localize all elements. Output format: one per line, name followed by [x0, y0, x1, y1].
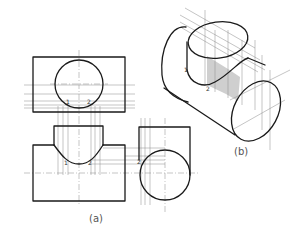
view-b-label: (b): [234, 146, 248, 157]
side-point-2-label: 2: [137, 158, 141, 165]
iso-point-2-label: 2: [206, 85, 210, 92]
view-a-label: (a): [89, 213, 103, 224]
front-point-2-label: 2: [88, 159, 92, 166]
side-view: 2: [137, 118, 190, 212]
isometric-view: 1 2 (b): [162, 8, 291, 157]
drawing-canvas: 2 1 1 2 (a) 2: [0, 0, 296, 238]
iso-point-1-label: 1: [184, 66, 188, 73]
front-point-1-label: 1: [64, 159, 68, 166]
top-point-1-label: 1: [66, 98, 70, 105]
front-view: 1 2 (a): [24, 118, 200, 224]
top-point-2-label: 2: [87, 98, 91, 105]
top-view: 2 1: [24, 50, 135, 175]
